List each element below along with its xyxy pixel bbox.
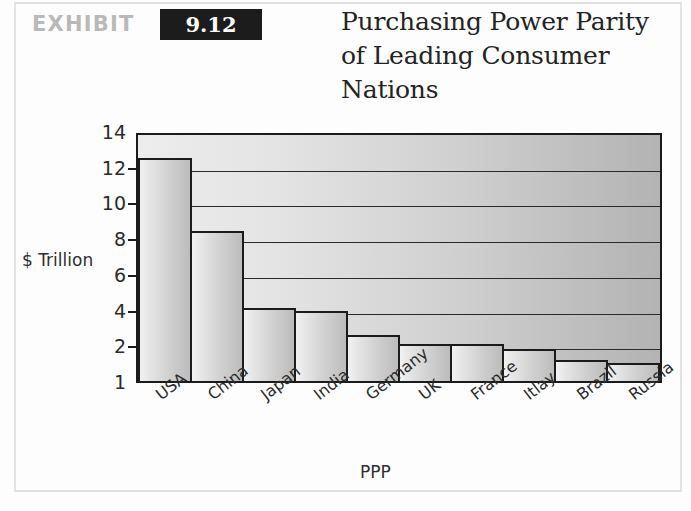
x-axis-title: PPP bbox=[0, 462, 691, 482]
exhibit-figure: EXHIBIT 9.12 Purchasing Power Parity of … bbox=[0, 0, 691, 511]
y-tick-mark bbox=[128, 239, 136, 241]
y-tick-label: 12 bbox=[80, 159, 126, 178]
y-tick-label: 10 bbox=[80, 194, 126, 213]
y-tick-label: 1 bbox=[80, 373, 126, 392]
bar-chart: $ Trillion 14121086421 USAChinaJapanIndi… bbox=[0, 0, 691, 511]
y-tick-label: 8 bbox=[80, 230, 126, 249]
bar-usa bbox=[138, 158, 192, 381]
plot-area bbox=[136, 133, 662, 383]
y-tick-mark bbox=[128, 203, 136, 205]
y-tick-label: 6 bbox=[80, 266, 126, 285]
y-tick-mark bbox=[128, 311, 136, 313]
y-tick-label: 14 bbox=[80, 123, 126, 142]
bar-china bbox=[190, 231, 244, 381]
bar-series bbox=[138, 135, 660, 381]
x-axis-tick-labels: USAChinaJapanIndiaGermanyUKFranceItlayBr… bbox=[136, 383, 662, 453]
y-tick-mark bbox=[128, 346, 136, 348]
y-tick-label: 4 bbox=[80, 302, 126, 321]
y-tick-mark bbox=[128, 275, 136, 277]
y-tick-mark bbox=[128, 168, 136, 170]
y-tick-label: 2 bbox=[80, 337, 126, 356]
